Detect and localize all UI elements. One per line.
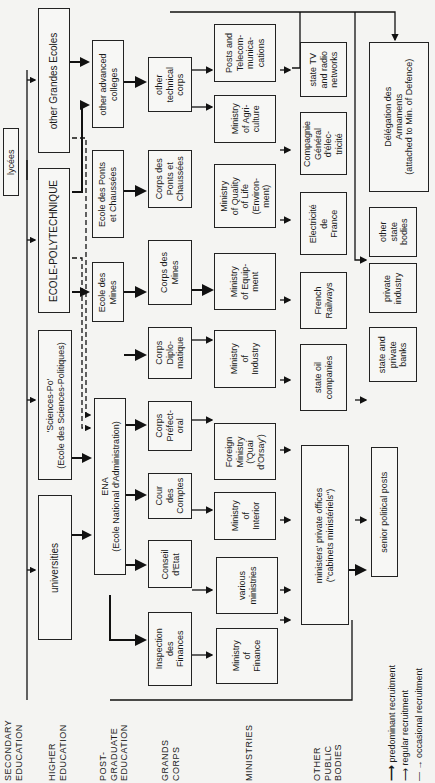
row-label-higher: HIGHER EDUCATION — [47, 724, 68, 781]
node-ecole-mines: Ecole des Mines — [92, 262, 124, 322]
node-sciences-po: 'Sciences-Po' (Ecole des Sciences-Politi… — [38, 330, 72, 480]
node-universities: universities — [38, 495, 72, 640]
legend-occasional: — → occasional recruitment — [412, 665, 426, 781]
node-other-grandes-ecoles: other Grandes Ecoles — [38, 8, 70, 153]
node-french-railways: French Railways — [300, 272, 347, 329]
node-min-interior: Ministry of Interior — [214, 492, 276, 540]
node-corps-diplomatique: Corps Diplo- matique — [148, 327, 192, 379]
node-state-oil: state oil companies — [300, 344, 347, 411]
node-cabinets: ministers' private offices ("cabinets mi… — [301, 445, 349, 625]
row-label-secondary: SECONDARY EDUCATION — [3, 720, 24, 781]
node-edf: Electricité de France — [300, 192, 347, 255]
node-corps-mines: Corps des Mines — [148, 240, 192, 305]
legend-regular: ⟶ regular recruitment — [398, 665, 412, 781]
node-posts-telecom: Posts and Telecom- munica- cations — [214, 24, 276, 82]
dashed-arrow-icon: — → — [414, 760, 424, 781]
node-private-industry: private industry — [369, 263, 417, 313]
node-cour-comptes: Cour des Comptes — [148, 473, 192, 519]
row-label-postgrad: POST- GRADUATE EDUCATION — [98, 724, 130, 781]
node-foreign-ministry: Foreign Ministry ('Quai d'Orsay') — [214, 423, 276, 480]
node-min-finance: Ministry of Finance — [216, 628, 278, 684]
node-corps-ponts: Corps des Ponts et Chaussées — [148, 150, 192, 208]
node-ecole-ponts: Ecole des Ponts et Chaussées — [92, 150, 124, 238]
node-conseil-etat: Conseil d'Etat — [148, 540, 192, 588]
node-other-state-bodies: other state bodies — [369, 207, 417, 257]
row-label-ministries: MINISTRIES — [244, 724, 255, 781]
row-label-grands-corps: GRANDS CORPS — [160, 739, 181, 781]
node-ena: ENA (Ecole National d'Administration) — [94, 398, 126, 575]
node-state-tv: state TV and radio networks — [300, 42, 347, 97]
node-senior-political: senior political posts — [371, 447, 398, 577]
node-lycees: lycées — [3, 128, 19, 196]
node-compagnie-generale: Compagnie Général d'élec- tricité — [300, 112, 347, 175]
node-inspection-finances: Inspection des Finances — [148, 612, 192, 686]
row-label-other-public: OTHER PUBLIC BODIES — [312, 744, 344, 781]
node-other-technical-corps: other technical corps — [148, 57, 192, 112]
node-corps-prefectoral: Corps Préfect- oral — [148, 401, 192, 451]
node-polytechnique: ECOLE-POLYTECHNIQUE — [38, 168, 70, 313]
legend: ⟶ predominant recruitment ⟶ regular recr… — [384, 665, 426, 781]
node-banks: state and private banks — [369, 327, 417, 382]
node-min-quality-life: Ministry of Quality of Life (Environ- me… — [214, 164, 276, 228]
node-delegation-armements: Délégation des Armaments (attached to Mi… — [369, 42, 429, 192]
node-min-industry: Ministry of Industry — [214, 330, 276, 388]
node-other-advanced-colleges: other advanced colleges — [92, 40, 124, 128]
thick-arrow-icon: ⟶ — [385, 765, 397, 781]
legend-predominant: ⟶ predominant recruitment — [384, 665, 398, 781]
node-min-agriculture: Ministry of Agri- culture — [214, 95, 276, 143]
node-min-equipment: Ministry of Equip- ment — [214, 253, 276, 310]
node-various-ministries: various ministries — [216, 557, 278, 614]
thin-arrow-icon: ⟶ — [400, 768, 410, 781]
